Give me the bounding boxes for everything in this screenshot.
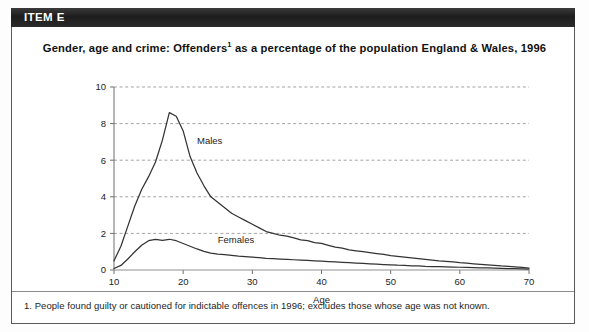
page-root: ITEM E Gender, age and crime: Offenders1…	[0, 0, 589, 332]
item-header-band: ITEM E	[11, 8, 575, 27]
item-content-box	[11, 8, 575, 324]
chart-title-tail: as a percentage of the population Englan…	[232, 42, 546, 54]
chart-title-main: Gender, age and crime: Offenders	[43, 42, 227, 54]
chart-title: Gender, age and crime: Offenders1 as a p…	[0, 42, 589, 54]
footnote-divider	[12, 291, 574, 292]
footnote-text: 1. People found guilty or cautioned for …	[24, 300, 490, 311]
item-header-label: ITEM E	[24, 11, 65, 23]
